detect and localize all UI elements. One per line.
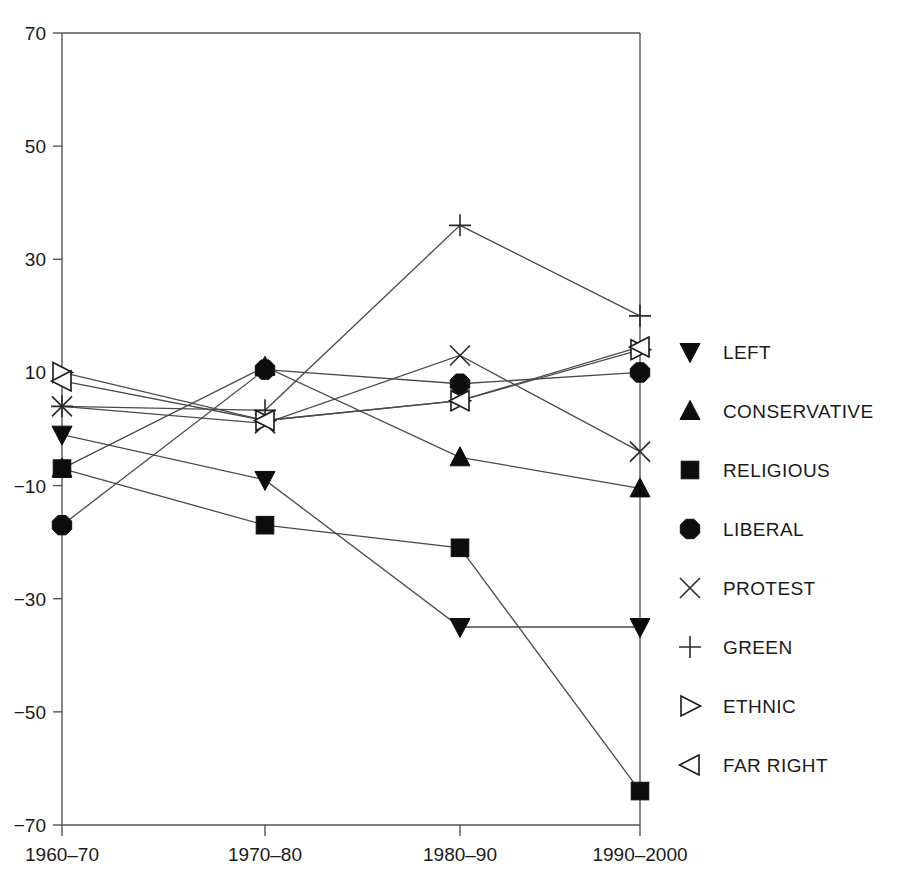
legend-label: GREEN xyxy=(723,637,793,658)
x-cross-icon xyxy=(450,345,470,365)
octagon-icon xyxy=(450,374,469,393)
legend-marker xyxy=(681,461,699,479)
series-line-protest xyxy=(62,355,640,451)
data-point xyxy=(255,471,275,490)
x-axis-tick-label: 1990–2000 xyxy=(592,844,687,865)
legend-label: LIBERAL xyxy=(723,519,804,540)
legend-item[interactable]: FAR RIGHT xyxy=(680,755,828,776)
plus-cross-icon xyxy=(679,636,701,658)
x-axis-tick-label: 1960–70 xyxy=(25,844,99,865)
legend-marker xyxy=(680,344,700,363)
series-line-far-right xyxy=(62,347,640,421)
series-line-religious xyxy=(62,469,640,791)
series-markers-liberal xyxy=(52,360,649,535)
legend-item[interactable]: PROTEST xyxy=(680,578,816,599)
legend-marker xyxy=(680,578,700,598)
legend-label: FAR RIGHT xyxy=(723,755,828,776)
y-axis-tick-label: −30 xyxy=(14,589,46,610)
series-markers-left xyxy=(52,426,650,637)
chart-page: 70503010−10−30−50−701960–701970–801980–9… xyxy=(0,0,914,894)
legend-item[interactable]: RELIGIOUS xyxy=(681,460,830,481)
data-point xyxy=(52,515,71,534)
series-line-ethnic xyxy=(62,350,640,421)
legend-marker xyxy=(679,636,701,658)
data-point xyxy=(450,619,470,638)
data-point xyxy=(450,374,469,393)
series-markers-green xyxy=(51,214,651,421)
triangle-down-icon xyxy=(680,344,700,363)
y-axis-tick-label: 10 xyxy=(25,362,46,383)
legend-marker xyxy=(680,755,700,775)
legend-marker xyxy=(680,401,700,420)
square-icon xyxy=(631,782,649,800)
legend-item[interactable]: GREEN xyxy=(679,636,793,658)
legend-item[interactable]: LEFT xyxy=(680,342,771,363)
series-markers-ethnic xyxy=(53,340,651,431)
series-markers-protest xyxy=(52,345,650,461)
data-point xyxy=(630,619,650,638)
legend-marker xyxy=(681,696,701,716)
series-line-green xyxy=(62,225,640,410)
data-point xyxy=(255,360,274,379)
square-icon xyxy=(451,539,469,557)
triangle-down-icon xyxy=(450,619,470,638)
legend-item[interactable]: CONSERVATIVE xyxy=(680,401,874,423)
data-point xyxy=(450,345,470,365)
data-point xyxy=(53,460,71,478)
legend-item[interactable]: ETHNIC xyxy=(681,696,796,717)
square-icon xyxy=(681,461,699,479)
data-point xyxy=(451,539,469,557)
legend-label: CONSERVATIVE xyxy=(723,401,874,422)
plus-cross-icon xyxy=(629,305,651,327)
octagon-icon xyxy=(630,363,649,382)
series-markers-far-right xyxy=(52,337,650,431)
legend-label: ETHNIC xyxy=(723,696,796,717)
triangle-up-icon xyxy=(450,447,470,466)
triangle-right-icon xyxy=(681,696,701,716)
triangle-down-icon xyxy=(630,619,650,638)
line-chart: 70503010−10−30−50−701960–701970–801980–9… xyxy=(0,0,914,894)
triangle-down-icon xyxy=(255,471,275,490)
octagon-icon xyxy=(255,360,274,379)
legend-label: LEFT xyxy=(723,342,771,363)
y-axis-tick-label: −50 xyxy=(14,702,46,723)
legend-marker xyxy=(680,519,699,538)
legend-label: RELIGIOUS xyxy=(723,460,830,481)
triangle-left-icon xyxy=(680,755,700,775)
square-icon xyxy=(53,460,71,478)
data-point xyxy=(630,363,649,382)
data-point xyxy=(256,516,274,534)
octagon-icon xyxy=(680,519,699,538)
x-cross-icon xyxy=(680,578,700,598)
square-icon xyxy=(256,516,274,534)
x-axis-tick-label: 1980–90 xyxy=(423,844,497,865)
data-point xyxy=(631,782,649,800)
octagon-icon xyxy=(52,515,71,534)
series-markers-religious xyxy=(53,460,649,800)
data-point xyxy=(629,305,651,327)
y-axis-tick-label: 70 xyxy=(25,23,46,44)
data-point xyxy=(450,447,470,466)
y-axis-tick-label: −70 xyxy=(14,815,46,836)
y-axis-tick-label: −10 xyxy=(14,476,46,497)
series-line-conservative xyxy=(62,367,640,489)
y-axis-tick-label: 50 xyxy=(25,136,46,157)
legend-item[interactable]: LIBERAL xyxy=(680,519,804,540)
legend: LEFTCONSERVATIVERELIGIOUSLIBERALPROTESTG… xyxy=(679,342,874,776)
legend-label: PROTEST xyxy=(723,578,816,599)
y-axis-tick-label: 30 xyxy=(25,249,46,270)
triangle-up-icon xyxy=(680,401,700,420)
x-axis-tick-label: 1970–80 xyxy=(228,844,302,865)
series-line-left xyxy=(62,435,640,627)
